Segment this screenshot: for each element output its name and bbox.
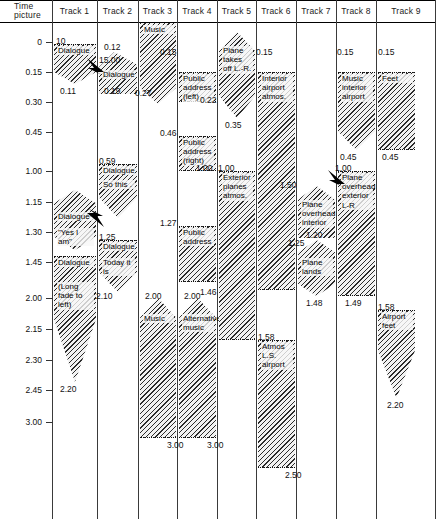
clip-time-marker: 0.35 xyxy=(225,120,242,130)
clip-label: Plane overhead interior xyxy=(301,200,333,228)
clip-time-marker: 3.00 xyxy=(167,440,184,450)
header-track-4: Track 4 xyxy=(177,0,217,22)
clip-label: Plane lands xyxy=(301,258,333,276)
clip-track5-exterior-planes[interactable]: Exterior planes atmos. xyxy=(219,171,255,340)
clip-time-marker: 1.58 xyxy=(258,332,275,342)
clip-track7-plane-lands[interactable]: Plane lands xyxy=(298,240,335,296)
header-track-1-label: Track 1 xyxy=(60,6,89,16)
axis-tick-label: 2.30 xyxy=(2,355,42,365)
clip-label: Interior airport atmos. xyxy=(261,74,293,102)
axis-tick-label: 2.45 xyxy=(2,385,42,395)
clip-time-marker: 2.20 xyxy=(387,400,404,410)
clip-time-marker: 0.11 xyxy=(60,86,76,96)
header-track-5: Track 5 xyxy=(217,0,256,22)
clip-track1-dialogue-3[interactable]: Dialogue (Long fade to left) xyxy=(54,256,96,382)
header-track-6-label: Track 6 xyxy=(261,6,290,16)
axis-tick-label: 2.15 xyxy=(2,324,42,334)
clip-sublabel: So this . xyxy=(102,180,135,189)
clip-time-marker: 1.27 xyxy=(160,218,177,228)
clip-track9-airport-feet[interactable]: Airport feet xyxy=(378,310,415,398)
clip-label: Exterior planes atmos. xyxy=(222,173,253,201)
axis-tick-label: 0.15 xyxy=(2,67,42,77)
clip-track4-alt-music[interactable]: Alternative music xyxy=(179,298,216,438)
clip-time-marker: 0.46 xyxy=(160,128,177,138)
axis-tick xyxy=(46,298,53,299)
clip-track2-dialogue-3[interactable]: Dialogue Today it is xyxy=(99,240,137,292)
clip-shape xyxy=(54,256,96,382)
clip-time-marker: 0.12 xyxy=(104,42,121,52)
clip-track6-atmos-ls-airport[interactable]: Atmos L.S. airport xyxy=(258,340,295,468)
axis-tick xyxy=(46,422,53,423)
header-track-5-label: Track 5 xyxy=(222,6,251,16)
axis-tick xyxy=(46,171,53,172)
clip-sublabel: (Long fade to left) xyxy=(57,282,94,310)
clip-label: Dialogue xyxy=(102,166,135,175)
clip-time-marker: 0.15 xyxy=(256,47,273,57)
axis-tick-label: 3.00 xyxy=(2,417,42,427)
clip-shape xyxy=(219,32,255,118)
clip-time-marker: 0.22 xyxy=(200,95,217,105)
clip-label: Dialogue xyxy=(102,242,135,251)
grid-vline-2 xyxy=(138,0,139,519)
axis-tick-label: 0.45 xyxy=(2,127,42,137)
clip-time-marker: 0.15 xyxy=(160,47,177,57)
grid-vline-6 xyxy=(296,0,297,519)
header-track-4-label: Track 4 xyxy=(182,6,211,16)
clip-track3-music-2[interactable]: Music xyxy=(140,298,176,438)
header-time-line2: picture xyxy=(14,10,41,20)
clip-time-marker: 0.59 xyxy=(99,156,116,166)
axis-tick xyxy=(46,72,53,73)
axis-tick xyxy=(46,360,53,361)
clip-label: Atmos L.S. airport xyxy=(261,342,293,370)
clip-time-marker: 0.45 xyxy=(382,152,399,162)
header-track-8-label: Track 8 xyxy=(341,6,370,16)
clip-time-marker: 2.20 xyxy=(60,384,77,394)
clip-time-marker: 1.00 xyxy=(196,163,213,173)
clip-sublabel: Today it is xyxy=(102,258,135,276)
header-track-2: Track 2 xyxy=(97,0,138,22)
clip-time-marker: 1.00 xyxy=(335,163,352,173)
axis-tick xyxy=(46,329,53,330)
axis-tick xyxy=(46,232,53,233)
clip-time-marker: 2.00 xyxy=(145,291,162,301)
cut-arrow-2 xyxy=(84,206,106,228)
header-track-6: Track 6 xyxy=(256,0,296,22)
clip-track4-pa[interactable]: Public address xyxy=(179,226,216,282)
header-track-3: Track 3 xyxy=(138,0,177,22)
header-track-3-label: Track 3 xyxy=(143,6,172,16)
clip-time-marker: 2.00 xyxy=(184,291,201,301)
clip-time-marker: 1.00 xyxy=(218,163,235,173)
grid-vline-5 xyxy=(256,0,257,519)
clip-label: Public address xyxy=(182,228,214,246)
axis-tick-label: 1.00 xyxy=(2,166,42,176)
axis-tick-label: 1.45 xyxy=(2,257,42,267)
clip-time-marker: 1.49 xyxy=(345,298,362,308)
clip-label: Plane takes off L.-R. xyxy=(222,46,253,74)
header-track-7: Track 7 xyxy=(296,0,336,22)
clip-track5-plane-takes-off[interactable]: Plane takes off L.-R. xyxy=(219,32,255,118)
clip-time-marker: 0.15 xyxy=(378,47,395,57)
header-track-8: Track 8 xyxy=(336,0,376,22)
clip-time-marker: 2.10 xyxy=(96,291,113,301)
clip-time-marker: 10 xyxy=(56,36,65,46)
clip-label: Public address (right) xyxy=(182,138,214,166)
header-track-2-label: Track 2 xyxy=(103,6,132,16)
clip-time-marker: 1.25 xyxy=(288,238,305,248)
axis-tick-label: 1.15 xyxy=(2,197,42,207)
clip-time-marker: 15.00 xyxy=(99,55,120,65)
clip-time-marker: 3.00 xyxy=(207,440,224,450)
clip-label: Music interior airport xyxy=(341,74,373,102)
clip-label: Alternative music xyxy=(182,314,214,332)
header-track-1: Track 1 xyxy=(52,0,97,22)
clip-time-marker: 1.48 xyxy=(306,298,323,308)
axis-tick xyxy=(46,102,53,103)
axis-tick xyxy=(46,132,53,133)
clip-track8-music-interior-airport[interactable]: Music interior airport xyxy=(338,72,375,150)
header-track-7-label: Track 7 xyxy=(301,6,330,16)
grid-vline-8 xyxy=(376,0,377,519)
clip-label: Dialogue xyxy=(57,258,94,267)
clip-time-marker: 2.50 xyxy=(285,470,302,480)
clip-time-marker: 1.20 xyxy=(306,230,323,240)
clip-track9-feet[interactable]: Feet xyxy=(378,72,415,150)
axis-tick-label: 0.30 xyxy=(2,97,42,107)
